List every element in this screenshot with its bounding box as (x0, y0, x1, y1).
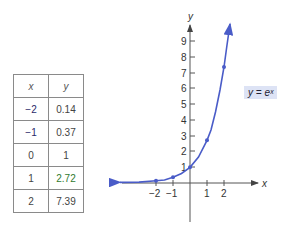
exponential-graph: −2 −1 1 2 1 2 3 4 5 6 7 8 9 x y (0, 0, 296, 232)
x-tick-label: 2 (221, 188, 227, 199)
equation-label: y = eˣ (244, 86, 277, 99)
y-tick-label: 5 (181, 99, 187, 110)
x-tick-label: −2 (149, 188, 161, 199)
x-tick-label: −1 (166, 188, 178, 199)
y-tick-label: 2 (181, 146, 187, 157)
y-ticks (190, 41, 195, 167)
y-tick-label: 7 (181, 68, 187, 79)
x-tick-label: 1 (204, 188, 210, 199)
y-tick-label: 3 (181, 131, 187, 142)
y-tick-label: 9 (181, 36, 187, 47)
y-tick-label: 6 (181, 83, 187, 94)
y-tick-label: 8 (181, 52, 187, 63)
x-axis-label: x (261, 178, 268, 189)
exponential-curve (120, 24, 230, 182)
y-tick-label: 4 (181, 115, 187, 126)
y-axis-label: y (187, 11, 194, 22)
